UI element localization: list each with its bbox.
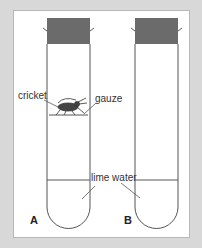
cricket-label: cricket [18,90,47,101]
stopper-a [47,18,90,44]
tube-a-label: A [30,214,38,226]
test-tubes-drawing [0,0,202,248]
tube-a [43,28,94,229]
gauze-label: gauze [95,93,122,104]
tube-b-label: B [124,214,132,226]
stopper-b [135,18,178,44]
tube-b [131,28,182,229]
cricket-icon [56,98,87,115]
lime-water-label: lime water [91,172,137,183]
